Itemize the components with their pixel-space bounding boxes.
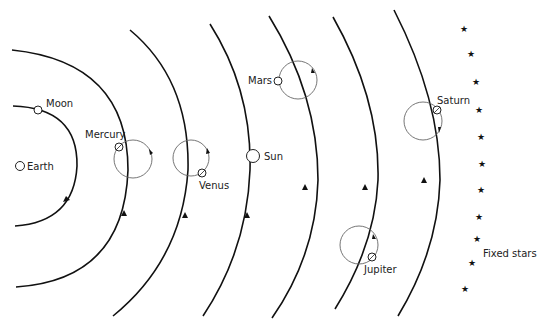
star-icon: ★ [472,77,480,87]
star-icon: ★ [475,105,483,115]
jupiter-label: Jupiter [363,264,397,275]
mars-epicycle [279,61,317,99]
moon-body [34,106,42,114]
venus-label: Venus [199,180,229,191]
diagram-canvas: Earth Moon Mercury Venus Sun Mars Jupite… [0,0,541,325]
star-icon: ★ [475,212,483,222]
saturn-orbit-arrow-icon [421,177,427,183]
sun-body [247,150,260,163]
mars-label: Mars [248,75,272,86]
star-icon: ★ [478,159,486,169]
earth-body [16,162,25,171]
venus-orbit-arrow-icon [182,212,188,218]
star-icon: ★ [467,49,475,59]
star-icon: ★ [473,234,481,244]
sun-orbit [203,24,250,316]
earth-label: Earth [27,161,54,172]
fixed-stars-label: Fixed stars [483,248,537,259]
saturn-label: Saturn [437,95,470,106]
star-icon: ★ [461,284,469,294]
star-icon: ★ [460,24,468,34]
mars-body [274,77,282,85]
mercury-epicycle-arrow-icon [149,149,153,155]
star-icon: ★ [468,258,476,268]
saturn-orbit [394,10,440,316]
venus-orbit [113,30,188,316]
mars-orbit-arrow-icon [302,184,308,190]
geocentric-diagram: Earth Moon Mercury Venus Sun Mars Jupite… [0,0,541,325]
moon-label: Moon [46,98,73,109]
mercury-label: Mercury [85,129,126,140]
star-icon: ★ [477,185,485,195]
star-icon: ★ [477,132,485,142]
jupiter-orbit-arrow-icon [362,184,368,190]
sun-label: Sun [264,151,283,162]
